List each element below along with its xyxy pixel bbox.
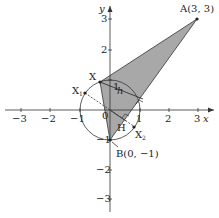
y-tick-label: −3 — [96, 193, 111, 204]
x-tick-label: 1 — [136, 113, 142, 124]
x-tick-label: −3 — [12, 113, 27, 124]
x-tick-label: 3 — [194, 113, 200, 124]
label-x1-sub: 1 — [79, 90, 83, 97]
shaded-triangle — [100, 19, 197, 140]
point-x — [98, 80, 101, 83]
label-h-point: H — [117, 122, 126, 133]
y-tick-label: −1 — [96, 134, 111, 145]
b-pointer — [112, 142, 118, 147]
y-tick-label: −2 — [96, 164, 111, 175]
y-tick-label: 3 — [101, 13, 107, 24]
x-tick-label: 2 — [165, 113, 171, 124]
label-x: X — [89, 71, 97, 82]
x-tick-label: −2 — [41, 113, 56, 124]
label-b: B(0, −1) — [116, 148, 159, 159]
x-axis-arrow-icon — [208, 108, 214, 113]
label-x2-sub: 2 — [142, 134, 146, 141]
point-a — [195, 17, 198, 20]
x-tick-label: −1 — [70, 113, 85, 124]
point-x1 — [83, 91, 86, 94]
origin-label: 0 — [102, 110, 108, 121]
coordinate-diagram: −3 −2 −1 1 2 3 x y 3 2 1 −1 −2 −3 0 A(3,… — [0, 0, 219, 218]
label-h-segment: h — [117, 85, 123, 96]
y-tick-label: 2 — [101, 44, 107, 55]
x-axis-label: x — [203, 113, 209, 124]
label-a: A(3, 3) — [179, 3, 214, 14]
y-axis-arrow-icon — [108, 6, 113, 12]
